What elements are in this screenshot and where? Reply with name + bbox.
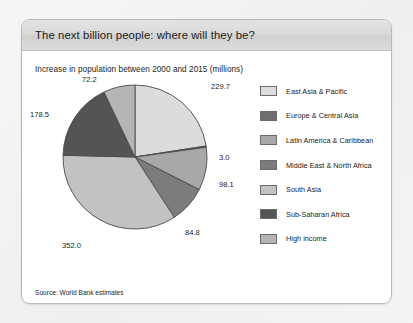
legend-swatch-icon [260, 234, 277, 244]
legend-swatch-icon [260, 209, 277, 219]
panel-body: Increase in population between 2000 and … [22, 51, 391, 303]
legend-label: South Asia [286, 185, 321, 194]
pie-slice-value-label: 229.7 [211, 82, 230, 91]
legend-swatch-icon [260, 160, 277, 170]
pie-slice-value-label: 72.2 [82, 75, 97, 84]
chart-legend: East Asia & Pacific Europe & Central Asi… [260, 79, 388, 251]
pie-slice-value-label: 3.0 [219, 153, 230, 162]
page-title: The next billion people: where will they… [22, 29, 255, 41]
source-note: Source: World Bank estimates [35, 289, 124, 296]
legend-item-high-income[interactable]: High income [260, 227, 388, 252]
pie-slice[interactable] [135, 85, 206, 157]
legend-swatch-icon [260, 111, 277, 121]
pie-slice-value-label: 178.5 [30, 110, 49, 119]
legend-item-europe-central-asia[interactable]: Europe & Central Asia [260, 104, 388, 129]
legend-label: High income [286, 234, 327, 243]
legend-item-middle-east-north-africa[interactable]: Middle East & North Africa [260, 153, 388, 178]
legend-item-latin-america-caribbean[interactable]: Latin America & Caribbean [260, 128, 388, 153]
legend-item-south-asia[interactable]: South Asia [260, 177, 388, 202]
legend-label: Sub-Saharan Africa [286, 210, 350, 219]
legend-item-east-asia-pacific[interactable]: East Asia & Pacific [260, 79, 388, 104]
legend-label: Latin America & Caribbean [286, 136, 373, 145]
pie-chart-svg: 229.73.098.184.8352.0178.572.2 [22, 73, 270, 285]
legend-item-sub-saharan-africa[interactable]: Sub-Saharan Africa [260, 202, 388, 227]
panel-header: The next billion people: where will they… [22, 20, 391, 51]
legend-label: Middle East & North Africa [286, 161, 372, 170]
pie-slice-value-label: 84.8 [185, 228, 200, 237]
chart-panel: The next billion people: where will they… [21, 19, 392, 304]
pie-chart: 229.73.098.184.8352.0178.572.2 [22, 73, 270, 285]
pie-slice-value-label: 98.1 [219, 180, 234, 189]
legend-label: Europe & Central Asia [286, 111, 358, 120]
legend-swatch-icon [260, 185, 277, 195]
legend-label: East Asia & Pacific [286, 87, 347, 96]
pie-slice-value-label: 352.0 [62, 241, 81, 250]
screenshot-root: The next billion people: where will they… [0, 0, 413, 323]
legend-swatch-icon [260, 86, 277, 96]
pie-slice-group [63, 85, 207, 229]
legend-swatch-icon [260, 135, 277, 145]
